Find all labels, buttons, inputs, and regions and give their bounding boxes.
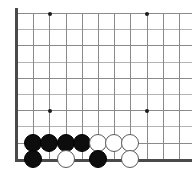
- grid-line-horizontal-3: [16, 62, 192, 63]
- board-left-border: [15, 8, 18, 162]
- white-stone-w3[interactable]: [121, 134, 139, 152]
- white-stone-w5[interactable]: [121, 150, 139, 168]
- black-stone-b5[interactable]: [24, 150, 42, 168]
- grid-line-horizontal-7: [16, 126, 192, 127]
- star-point-icon-lower-right-star: [145, 109, 149, 113]
- grid-line-vertical-9: [163, 13, 164, 161]
- grid-line-horizontal-5: [16, 94, 192, 95]
- grid-line-vertical-10: [179, 13, 180, 161]
- grid-line-horizontal-4: [16, 78, 192, 79]
- grid-line-vertical-8: [147, 13, 148, 161]
- star-point-icon-upper-left-star: [48, 12, 52, 16]
- go-board[interactable]: [0, 0, 192, 176]
- grid-line-horizontal-6: [16, 110, 192, 111]
- star-point-icon-lower-left-star: [48, 109, 52, 113]
- grid-line-horizontal-1: [16, 29, 192, 30]
- white-stone-w4[interactable]: [57, 150, 75, 168]
- goban-grid: [0, 0, 192, 176]
- star-point-icon-upper-right-star: [145, 12, 149, 16]
- grid-line-horizontal-0: [16, 13, 192, 14]
- black-stone-b6[interactable]: [89, 150, 107, 168]
- grid-line-horizontal-2: [16, 45, 192, 46]
- black-stone-b2[interactable]: [40, 134, 58, 152]
- black-stone-b3[interactable]: [57, 134, 75, 152]
